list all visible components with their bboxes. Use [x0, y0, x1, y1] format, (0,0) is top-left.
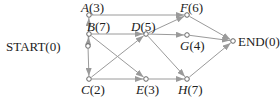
node-c — [87, 77, 92, 82]
node-label-start: START(0) — [6, 40, 61, 53]
node-label-d: D(5) — [131, 20, 156, 33]
edge-start-c — [88, 49, 89, 76]
edge-d-g — [149, 34, 184, 35]
node-label-c: C(2) — [81, 83, 105, 96]
node-label-h: H(7) — [178, 83, 203, 96]
node-label-end: END(0) — [238, 35, 280, 48]
node-g — [185, 33, 190, 38]
node-label-g: G(4) — [180, 39, 205, 52]
node-label-e: E(3) — [136, 83, 159, 96]
node-label-f: F(6) — [180, 1, 203, 14]
node-label-b: B(7) — [87, 20, 110, 33]
node-h — [185, 77, 190, 82]
node-label-a: A(3) — [81, 1, 104, 14]
node-end — [231, 39, 236, 44]
node-start — [86, 44, 91, 49]
edge-start-b — [88, 37, 89, 43]
node-e — [144, 77, 149, 82]
